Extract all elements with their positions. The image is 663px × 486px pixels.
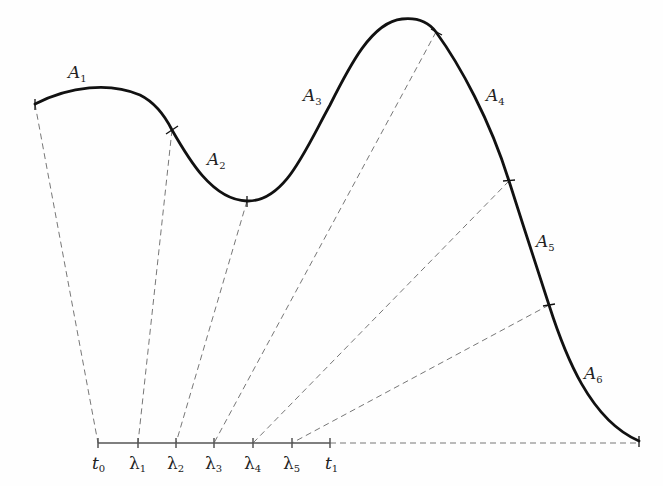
label-A3: A3 (301, 85, 322, 107)
curve (35, 19, 639, 441)
label-lambda4: λ4 (244, 453, 261, 474)
connector-l2 (176, 201, 247, 443)
connector-l1 (138, 130, 172, 443)
label-A5: A5 (534, 231, 555, 253)
label-t0: t0 (92, 453, 105, 474)
label-A1: A1 (66, 62, 87, 84)
label-lambda5: λ5 (283, 453, 300, 474)
connector-l3 (214, 32, 436, 443)
connector-t0 (35, 104, 98, 443)
partition-diagram: A1 A2 A3 A4 A5 A6 t0 λ1 λ2 λ3 λ4 λ5 t1 (0, 0, 663, 486)
connector-l4 (253, 181, 509, 443)
label-lambda2: λ2 (167, 453, 184, 474)
label-A2: A2 (205, 149, 226, 171)
interval-labels: t0 λ1 λ2 λ3 λ4 λ5 t1 (92, 453, 338, 474)
label-A4: A4 (484, 85, 505, 107)
label-lambda3: λ3 (205, 453, 222, 474)
label-lambda1: λ1 (129, 453, 146, 474)
interval-axis (98, 438, 330, 448)
connector-l5 (292, 305, 549, 443)
label-A6: A6 (582, 363, 603, 385)
label-t1: t1 (325, 453, 338, 474)
